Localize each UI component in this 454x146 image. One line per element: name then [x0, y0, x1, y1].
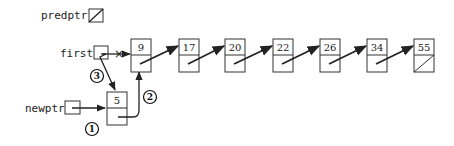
list-node-value: 17: [183, 42, 196, 53]
step-3-label: 3: [94, 71, 100, 81]
predptr-pointer: predptr: [41, 9, 103, 22]
list-node: 22: [273, 39, 319, 72]
new-node-value: 5: [114, 95, 120, 106]
step-1-label: 1: [89, 124, 95, 134]
step-2-label: 2: [147, 92, 153, 102]
newptr-label: newptr: [25, 102, 65, 115]
step-3-marker: 3: [91, 70, 104, 83]
step-2-marker: 2: [144, 91, 157, 104]
list-nodes: 9172022263455: [131, 39, 434, 72]
new-node-5: 5: [107, 72, 139, 125]
list-node: 26: [320, 39, 366, 72]
list-node-value: 9: [138, 42, 144, 53]
list-node-value: 26: [324, 42, 337, 53]
list-node-value: 20: [229, 42, 242, 53]
predptr-label: predptr: [41, 9, 88, 22]
list-node: 55: [414, 39, 434, 72]
list-node: 20: [225, 39, 272, 72]
list-node-value: 34: [371, 42, 384, 53]
first-pointer: first ×: [60, 46, 130, 90]
linked-list-diagram: predptr first × newptr 5 9172022263455 1…: [0, 0, 454, 146]
list-node: 34: [367, 39, 413, 72]
list-node-value: 22: [277, 42, 290, 53]
list-node: 9: [131, 39, 178, 72]
first-label: first: [60, 47, 93, 60]
newptr-pointer: newptr: [25, 101, 105, 115]
cross-mark: ×: [114, 47, 124, 61]
list-node: 17: [179, 39, 224, 72]
list-node-value: 55: [418, 42, 431, 53]
step-1-marker: 1: [86, 123, 99, 136]
